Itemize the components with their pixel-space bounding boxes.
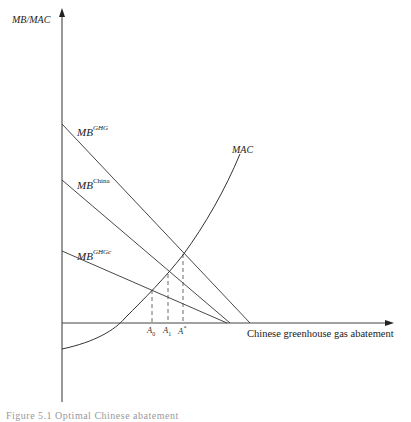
y-axis-arrow-icon <box>59 8 65 17</box>
tick-a1: A1 <box>163 325 171 337</box>
mac-label: MAC <box>232 144 253 155</box>
x-axis-arrow-icon <box>385 320 394 326</box>
y-axis-label: MB/MAC <box>12 14 50 25</box>
tick-a0: A0 <box>147 325 155 337</box>
x-axis-label: Chinese greenhouse gas abatement <box>247 328 394 339</box>
figure-caption: Figure 5.1 Optimal Chinese abatement <box>6 410 179 421</box>
mb-ghgc-label: MBGHGc <box>77 250 111 262</box>
mb-ghg-line <box>62 124 250 323</box>
diagram-canvas <box>0 0 411 422</box>
mb-ghg-label: MBGHG <box>77 126 108 138</box>
tick-astar: A* <box>178 325 186 336</box>
mb-china-label: MBChina <box>77 179 110 191</box>
